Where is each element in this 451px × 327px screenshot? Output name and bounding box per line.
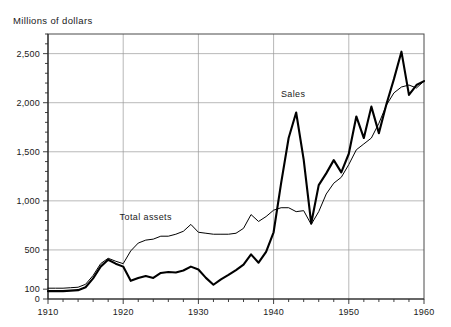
x-tick-label-1940: 1940: [263, 307, 284, 317]
x-tick-label-1950: 1950: [338, 307, 359, 317]
series-lines: [48, 52, 424, 291]
y-axis-ticks: [43, 34, 48, 299]
chart-gridlines: [48, 34, 424, 299]
x-tick-label-1910: 1910: [38, 307, 59, 317]
plot-frame: [48, 34, 424, 299]
y-tick-label-2000: 2,000: [16, 98, 40, 108]
chart-figure: 01005001,0001,5002,0002,500 191019201930…: [0, 0, 451, 327]
x-axis-ticks: [48, 299, 424, 304]
x-axis-tick-labels: 191019201930194019501960: [38, 307, 435, 317]
line-chart: 01005001,0001,5002,0002,500 191019201930…: [0, 0, 451, 327]
x-tick-label-1960: 1960: [414, 307, 435, 317]
y-tick-label-500: 500: [24, 245, 40, 255]
series-annotation-total-assets: Total assets: [120, 212, 172, 222]
series-line-total-assets: [48, 81, 424, 288]
x-tick-label-1930: 1930: [188, 307, 209, 317]
y-axis-tick-labels: 01005001,0001,5002,0002,500: [16, 49, 40, 304]
y-tick-label-1500: 1,500: [16, 147, 40, 157]
y-tick-label-100: 100: [24, 284, 40, 294]
y-tick-label-1000: 1,000: [16, 196, 40, 206]
series-annotation-sales: Sales: [281, 89, 306, 99]
y-axis-title: Millions of dollars: [13, 15, 93, 26]
x-tick-label-1920: 1920: [113, 307, 134, 317]
series-line-sales: [48, 52, 424, 291]
y-tick-label-2500: 2,500: [16, 49, 40, 59]
y-tick-label-0: 0: [35, 294, 40, 304]
